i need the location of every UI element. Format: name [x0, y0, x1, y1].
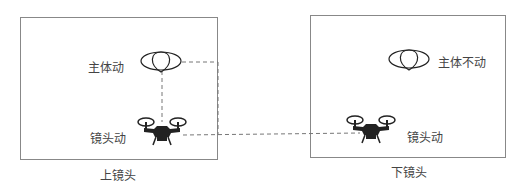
camera-label-lower: 镜头动	[407, 128, 443, 145]
subject-label-lower: 主体不动	[438, 53, 486, 70]
camera-label-upper: 镜头动	[90, 129, 126, 146]
subject-icon-upper	[141, 52, 181, 72]
subject-icon-lower	[389, 50, 429, 70]
drone-icon-lower	[347, 116, 395, 143]
subject-label-upper: 主体动	[88, 58, 124, 75]
dashed-connectors	[162, 62, 360, 135]
caption-lower: 下镜头	[391, 163, 427, 180]
caption-upper: 上镜头	[100, 166, 136, 183]
diagram-overlay	[0, 0, 523, 190]
drone-icon-upper	[138, 118, 186, 145]
